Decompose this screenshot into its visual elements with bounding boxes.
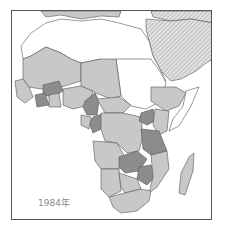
africa-map (12, 11, 212, 220)
ethiopia (151, 87, 186, 111)
europe-region (41, 11, 121, 19)
year-label: 1984年 (38, 196, 70, 209)
map-frame (11, 10, 212, 220)
gabon (81, 115, 91, 129)
namibia (101, 169, 121, 197)
madagascar (179, 153, 194, 195)
ghana-togo (49, 93, 61, 107)
